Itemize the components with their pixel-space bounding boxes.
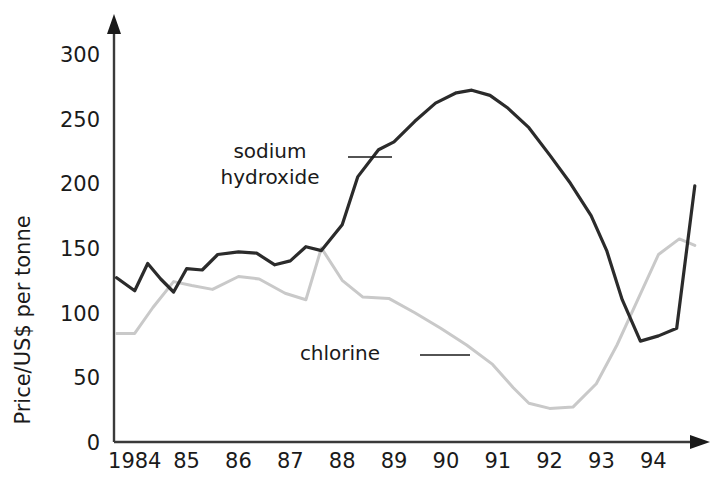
y-tick-label: 200 (60, 172, 100, 196)
x-axis-arrowhead (690, 435, 710, 449)
sodium-hydroxide-label-line: sodium (233, 139, 306, 163)
series-line-chlorine (117, 239, 695, 409)
y-axis-arrowhead (107, 14, 121, 34)
x-tick-label: 89 (381, 449, 408, 473)
series-line-sodium-hydroxide (117, 90, 695, 341)
x-tick-label: 91 (484, 449, 511, 473)
x-tick-labels: 198485868788899091929394 (108, 449, 667, 473)
y-tick-label: 0 (87, 431, 100, 455)
x-tick-label: 87 (277, 449, 304, 473)
x-tick-label: 85 (173, 449, 200, 473)
data-series-group (117, 90, 695, 408)
x-tick-label: 93 (588, 449, 615, 473)
chlorine-label-line: chlorine (300, 341, 380, 365)
axis-group (107, 14, 710, 449)
x-tick-label: 94 (640, 449, 667, 473)
y-tick-labels: 050100150200250300 (60, 43, 100, 455)
y-tick-label: 150 (60, 237, 100, 261)
y-tick-label: 300 (60, 43, 100, 67)
y-axis-title: Price/US$ per tonne (11, 215, 35, 424)
x-tick-label: 90 (433, 449, 460, 473)
x-tick-label: 1984 (108, 449, 161, 473)
x-tick-label: 88 (329, 449, 356, 473)
x-tick-label: 92 (536, 449, 563, 473)
y-tick-label: 250 (60, 108, 100, 132)
annotation-group: sodiumhydroxidechlorine (220, 139, 470, 365)
chart-figure: 050100150200250300 198485868788899091929… (0, 0, 715, 492)
y-tick-label: 100 (60, 302, 100, 326)
chart-canvas: 050100150200250300 198485868788899091929… (0, 0, 715, 492)
x-tick-label: 86 (225, 449, 252, 473)
y-tick-label: 50 (73, 366, 100, 390)
sodium-hydroxide-label-line: hydroxide (220, 165, 319, 189)
